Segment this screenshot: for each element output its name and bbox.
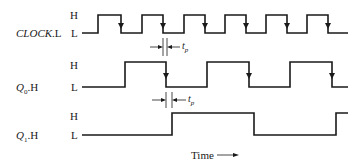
time-axis-arrow [217,153,239,157]
propagation-delay-marker-1 [150,38,180,56]
timing-waveforms [0,0,363,164]
time-axis-label: Time [191,149,214,161]
tp-label-1: tp [182,40,188,54]
tp-label-2: tp [188,93,194,107]
propagation-delay-marker-2 [152,92,186,108]
q0-falling-edge-arrows [163,73,335,79]
q1-waveform [82,113,348,135]
q0-waveform [82,62,348,87]
